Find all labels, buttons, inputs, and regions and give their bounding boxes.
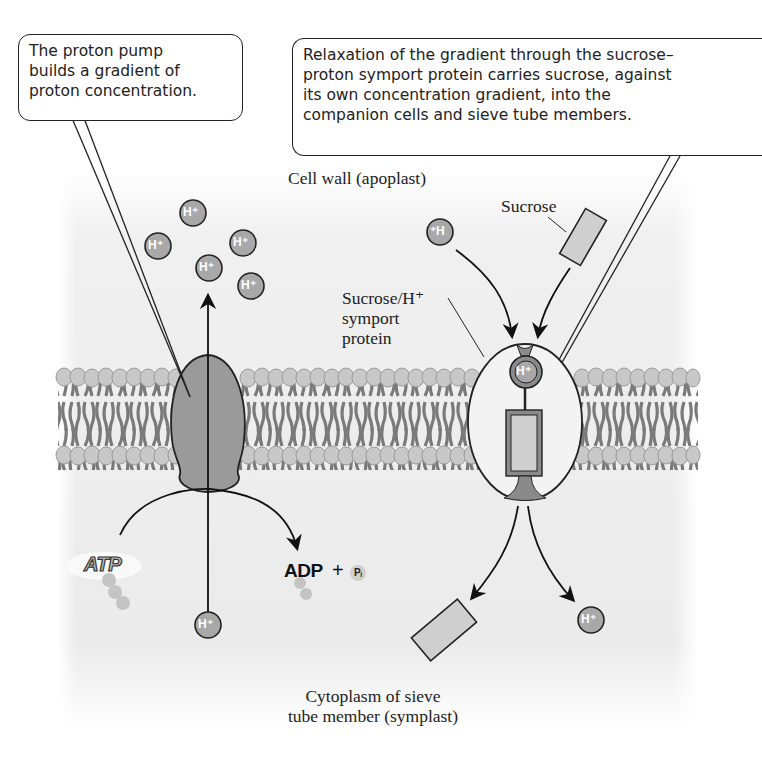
label-line: Cytoplasm of sieve — [258, 686, 488, 706]
cell-wall-label: Cell wall (apoplast) — [288, 168, 426, 188]
callout-line: proton concentration. — [29, 81, 232, 101]
label-line: protein — [342, 328, 424, 348]
callout-line: Relaxation of the gradient through the s… — [303, 45, 752, 65]
proton-icon: H⁺ — [148, 238, 163, 252]
proton-icon: H⁺ — [516, 364, 531, 378]
proton-pump-callout: The proton pump builds a gradient of pro… — [18, 34, 243, 121]
proton-icon: H⁺ — [241, 278, 256, 292]
callout-line: its own concentration gradient, into the — [303, 85, 752, 105]
phosphate-icon: Pᵢ — [350, 565, 366, 581]
proton-icon: H⁺ — [199, 260, 214, 274]
atp-label: ATP — [84, 553, 121, 576]
adp-label: ADP — [284, 560, 323, 582]
plasma-membrane — [56, 368, 700, 470]
label-line: symport — [342, 308, 424, 328]
callout-line: proton symport protein carries sucrose, … — [303, 65, 752, 85]
proton-icon: H⁺ — [233, 235, 248, 249]
proton-icon: H⁺ — [198, 617, 213, 631]
proton-icon: H⁺ — [581, 612, 596, 626]
cytoplasm-label: Cytoplasm of sieve tube member (symplast… — [258, 686, 488, 726]
proton-icon: H⁺ — [183, 205, 198, 219]
symport-callout: Relaxation of the gradient through the s… — [292, 38, 762, 156]
symport-protein-label: Sucrose/H⁺ symport protein — [342, 288, 424, 348]
label-line: tube member (symplast) — [258, 706, 488, 726]
callout-line: companion cells and sieve tube members. — [303, 105, 752, 125]
proton-icon: ⁺H — [430, 224, 445, 238]
label-line: Sucrose/H⁺ — [342, 288, 424, 308]
callout-line: builds a gradient of — [29, 61, 232, 81]
plus-sign: + — [332, 559, 344, 582]
callout-line: The proton pump — [29, 41, 232, 61]
sucrose-label: Sucrose — [501, 196, 556, 216]
